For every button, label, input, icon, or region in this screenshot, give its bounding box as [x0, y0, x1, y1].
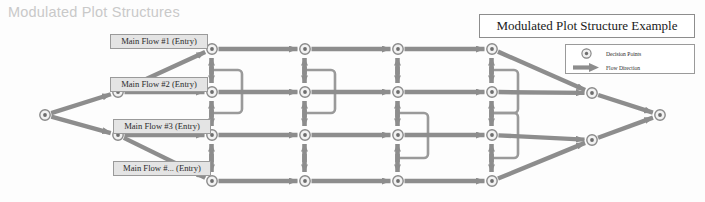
- grid-node-r2c3[interactable]: [393, 87, 403, 97]
- grid-node-r2c2[interactable]: [300, 87, 310, 97]
- end-node[interactable]: [655, 110, 665, 120]
- decision-point-icon: [566, 48, 606, 59]
- bidirectional-link-layer: [212, 58, 492, 172]
- bracket-connector-layer: [212, 70, 518, 158]
- legend-item-flow-direction: Flow Direction: [566, 60, 696, 75]
- entry-label-4: Main Flow #... (Entry): [113, 161, 211, 176]
- flow-edge-S-to-A: [51, 94, 111, 113]
- grid-node-r2c4[interactable]: [487, 87, 497, 97]
- grid-node-r3c2[interactable]: [300, 130, 310, 140]
- diagram-title-box: Modulated Plot Structure Example: [479, 14, 695, 38]
- flow-arrow-icon: [566, 62, 606, 73]
- grid-node-r1c1[interactable]: [207, 44, 217, 54]
- grid-node-r1c2[interactable]: [300, 44, 310, 54]
- merge-node-top[interactable]: [587, 88, 597, 98]
- grid-node-r4c1[interactable]: [207, 176, 217, 186]
- flow-edge-S-to-B: [51, 117, 110, 133]
- grid-node-r4c2[interactable]: [300, 176, 310, 186]
- start-node[interactable]: [40, 110, 50, 120]
- diagram-page: Modulated Plot Structures Main Flow #1 (…: [0, 0, 705, 202]
- grid-node-r3c4[interactable]: [487, 130, 497, 140]
- legend-item-decision-points: Decision Points: [566, 46, 696, 61]
- entry-label-3: Main Flow #3 (Entry): [113, 119, 211, 134]
- flow-edge-r4c4-to-M2: [498, 143, 585, 179]
- flow-edge-M1-to-E: [598, 95, 653, 113]
- legend-label-flow-direction: Flow Direction: [606, 65, 640, 71]
- flow-edge-M2-to-E: [598, 118, 653, 138]
- flow-edge-r2c4-to-M1: [498, 92, 584, 93]
- legend-box: Decision Points Flow Direction: [565, 44, 695, 74]
- entry-label-1: Main Flow #1 (Entry): [110, 34, 208, 49]
- grid-node-r1c4[interactable]: [487, 44, 497, 54]
- entry-label-2: Main Flow #2 (Entry): [110, 77, 208, 92]
- grid-node-r4c4[interactable]: [487, 176, 497, 186]
- grid-node-r1c3[interactable]: [393, 44, 403, 54]
- flow-edge-r3c4-to-M2: [498, 135, 584, 139]
- grid-node-r2c1[interactable]: [207, 87, 217, 97]
- grid-node-r3c3[interactable]: [393, 130, 403, 140]
- grid-node-r4c3[interactable]: [393, 176, 403, 186]
- legend-label-decision-points: Decision Points: [606, 51, 641, 57]
- merge-node-bot[interactable]: [587, 135, 597, 145]
